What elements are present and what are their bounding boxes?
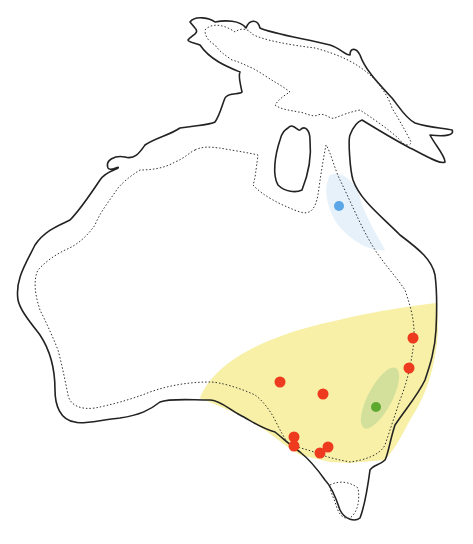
red-site-marker[interactable] (404, 363, 415, 374)
gulf-of-carpentaria (275, 126, 311, 192)
map-container (0, 0, 473, 544)
red-site-marker[interactable] (408, 333, 419, 344)
australia-map (0, 0, 473, 544)
red-site-marker[interactable] (318, 389, 329, 400)
yellow-range-area (200, 303, 438, 463)
red-site-marker[interactable] (315, 448, 326, 459)
red-site-marker[interactable] (275, 377, 286, 388)
green-site-marker[interactable] (371, 402, 381, 412)
blue-site-marker[interactable] (334, 201, 344, 211)
red-site-marker[interactable] (289, 441, 300, 452)
tasmania-outline (330, 482, 359, 518)
